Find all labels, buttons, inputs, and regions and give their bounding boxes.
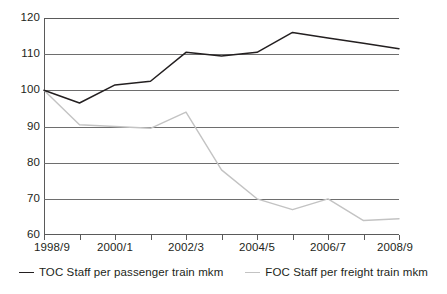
legend-line-icon-toc: [19, 272, 34, 273]
series-line-foc: [44, 90, 399, 220]
legend-item-foc: FOC Staff per freight train mkm: [245, 266, 428, 279]
series-line-toc: [44, 32, 399, 103]
legend-label-foc: FOC Staff per freight train mkm: [265, 266, 428, 279]
legend-line-icon-foc: [245, 272, 260, 273]
legend-item-toc: TOC Staff per passenger train mkm: [19, 266, 223, 279]
series-group: [0, 0, 447, 294]
line-chart: 12011010090807060 1998/92000/12002/32004…: [0, 0, 447, 294]
legend-label-toc: TOC Staff per passenger train mkm: [39, 266, 223, 279]
chart-legend: TOC Staff per passenger train mkm FOC St…: [0, 266, 447, 279]
